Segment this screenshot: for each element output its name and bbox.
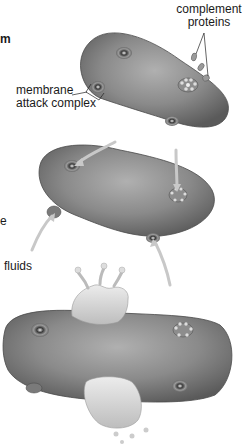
complement-lysis-diagram: complement proteins membrane attack comp…: [0, 0, 242, 446]
label-line: proteins: [176, 16, 242, 29]
fluid-burst-top: [72, 263, 129, 324]
membrane-attack-complex-label: membrane attack complex: [16, 84, 96, 110]
label-line: attack complex: [16, 97, 96, 110]
bacterium-stage-1: [72, 33, 228, 127]
diagram-artwork: [0, 0, 242, 446]
cut-off-text-mid: e: [0, 215, 7, 228]
cut-off-text-top: m: [0, 33, 11, 46]
mac-pore: [165, 116, 179, 126]
mac-pore: [116, 47, 132, 59]
fluids-label: fluids: [4, 260, 32, 273]
bacterium-stage-3-lysis: [3, 263, 232, 444]
complement-proteins-label: complement proteins: [176, 3, 242, 29]
mac-pore-ring: [178, 78, 198, 92]
bacterium-stage-2: [32, 142, 214, 285]
